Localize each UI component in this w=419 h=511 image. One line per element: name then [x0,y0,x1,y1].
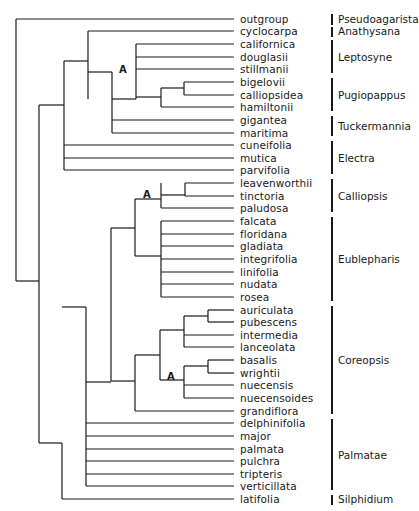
taxon-label: calliopsidea [240,89,303,101]
section-bracket [331,27,333,37]
taxon-label: floridana [240,228,287,240]
taxon-label: hamiltonii [240,101,293,113]
taxon-label: nuecensis [240,379,293,391]
section-bracket [331,419,333,490]
taxon-label: linifolia [240,266,279,278]
taxon-label: lanceolata [240,341,296,353]
taxon-label: maritima [240,127,288,139]
section-bracket [331,14,333,25]
taxon-label: parvifolia [240,164,290,176]
section-label: Leptosyne [338,51,392,63]
taxon-label: paludosa [240,202,288,214]
taxon-label: douglasii [240,51,288,63]
node-marker: A [143,190,151,200]
node-marker: A [119,65,127,75]
taxon-label: cyclocarpa [240,25,298,37]
taxon-label: major [240,430,271,442]
section-label: Pseudoagarista [338,13,419,25]
taxon-label: rosea [240,291,269,303]
taxon-label: stillmanii [240,63,289,75]
taxon-label: verticillata [240,480,297,492]
section-bracket [331,495,333,505]
taxon-label: palmata [240,443,284,455]
section-label: Palmatae [338,449,387,461]
section-bracket [331,141,333,174]
section-label: Pugiopappus [338,89,405,101]
taxon-label: nudata [240,278,278,290]
taxon-label: delphinifolia [240,417,306,429]
taxon-label: falcata [240,215,277,227]
section-label: Silphidium [338,493,393,505]
taxon-label: integrifolia [240,253,298,265]
section-label: Calliopsis [338,190,387,202]
taxon-label: gladiata [240,240,283,252]
section-bracket [331,179,333,212]
taxon-label: basalis [240,354,277,366]
node-marker: A [167,372,175,382]
section-bracket [331,217,333,301]
taxon-label: intermedia [240,329,298,341]
taxon-label: tinctoria [240,190,285,202]
taxon-label: auriculata [240,304,294,316]
section-label: Coreopsis [338,354,389,366]
taxon-label: californica [240,38,295,50]
taxon-label: grandiflora [240,405,299,417]
taxon-label: tripteris [240,468,282,480]
taxon-label: wrightii [240,367,280,379]
section-bracket [331,116,333,136]
taxon-label: bigelovii [240,76,285,88]
section-bracket [331,40,333,73]
taxon-label: nuecensoides [240,392,313,404]
section-bracket [331,306,333,414]
section-label: Tuckermannia [338,120,411,132]
taxon-label: outgroup [240,13,289,25]
taxon-label: pubescens [240,316,297,328]
section-label: Eublepharis [338,253,400,265]
taxon-label: leavenworthii [240,177,312,189]
section-label: Anathysana [338,25,400,37]
taxon-label: mutica [240,152,277,164]
section-label: Electra [338,152,375,164]
taxon-label: gigantea [240,114,287,126]
taxon-label: pulchra [240,455,280,467]
taxon-label: latifolia [240,493,280,505]
section-bracket [331,78,333,111]
taxon-label: cuneifolia [240,139,292,151]
